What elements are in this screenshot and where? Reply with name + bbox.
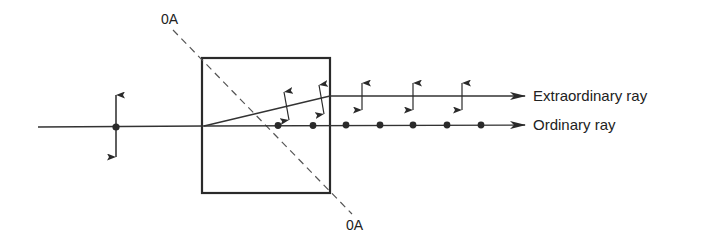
extraordinary-ray-label: Extraordinary ray (533, 88, 647, 103)
ordinary-ray-label: Ordinary ray (533, 117, 616, 132)
ordinary-ray (204, 125, 525, 126)
extraordinary-ray-inside (204, 96, 330, 126)
incident-ray (38, 126, 204, 127)
extraordinary-polarization-arrows (284, 83, 462, 120)
optic-axis-label-bottom: 0A (346, 218, 363, 232)
optic-axis-label-top: 0A (161, 12, 178, 26)
incident-polarization-icon (112, 95, 119, 157)
